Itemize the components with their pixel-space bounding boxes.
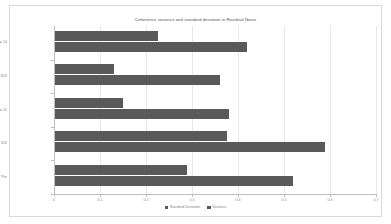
bar-variance[interactable] (54, 176, 293, 186)
bar-group (54, 160, 376, 194)
chart-legend: Standard DeviationVariance (10, 205, 381, 210)
legend-item[interactable]: Variance (207, 205, 226, 210)
chart-title: Coherence variance and standard deviatio… (10, 17, 381, 23)
bar-group (54, 127, 376, 161)
x-axis-tick-label: 0 (44, 198, 64, 203)
y-axis-tick (51, 60, 54, 61)
legend-item[interactable]: Standard Deviation (165, 205, 201, 210)
x-axis-tick (146, 194, 147, 197)
x-axis-tick (192, 194, 193, 197)
x-axis-tick-label: 0.4 (228, 198, 248, 203)
x-axis-tick-label: 0.5 (274, 198, 294, 203)
y-axis-label: Asus Zenfone 10 (0, 108, 7, 113)
plot-area (54, 26, 376, 194)
legend-label: Variance (212, 205, 226, 210)
bar-standard-deviation[interactable] (54, 98, 123, 108)
x-axis-line (54, 194, 376, 195)
y-axis-line (54, 26, 55, 194)
x-axis-tick (100, 194, 101, 197)
x-axis-tick-label: 0.6 (320, 198, 340, 203)
y-axis-tick (51, 127, 54, 128)
y-axis-tick (51, 160, 54, 161)
x-axis-tick (376, 194, 377, 197)
y-axis-label: Nexus 10X (0, 141, 7, 146)
x-axis-tick-label: 0.3 (182, 198, 202, 203)
gridline (376, 26, 377, 194)
legend-swatch-icon (207, 206, 210, 209)
bar-variance[interactable] (54, 109, 229, 119)
x-axis-tick-label: 0.7 (366, 198, 386, 203)
x-axis-tick (238, 194, 239, 197)
bar-group (54, 26, 376, 60)
bar-group (54, 93, 376, 127)
bar-standard-deviation[interactable] (54, 131, 227, 141)
bar-group (54, 60, 376, 94)
y-axis-label: Samsung Galaxy S23 (0, 74, 7, 79)
x-axis-tick (54, 194, 55, 197)
legend-label: Standard Deviation (170, 205, 201, 210)
bar-variance[interactable] (54, 142, 325, 152)
x-axis-tick (284, 194, 285, 197)
x-axis-tick (330, 194, 331, 197)
bar-standard-deviation[interactable] (54, 64, 114, 74)
y-axis-tick (51, 93, 54, 94)
x-axis-tick-label: 0.2 (136, 198, 156, 203)
bar-variance[interactable] (54, 42, 247, 52)
chart-card: Coherence variance and standard deviatio… (9, 5, 382, 217)
x-axis-tick-label: 0.1 (90, 198, 110, 203)
bar-variance[interactable] (54, 75, 220, 85)
bar-standard-deviation[interactable] (54, 165, 187, 175)
bar-standard-deviation[interactable] (54, 31, 158, 41)
y-axis-label: Apple iPhone 14 (0, 40, 7, 45)
legend-swatch-icon (165, 206, 168, 209)
y-axis-label: Pixel 7 Pro (0, 175, 7, 180)
